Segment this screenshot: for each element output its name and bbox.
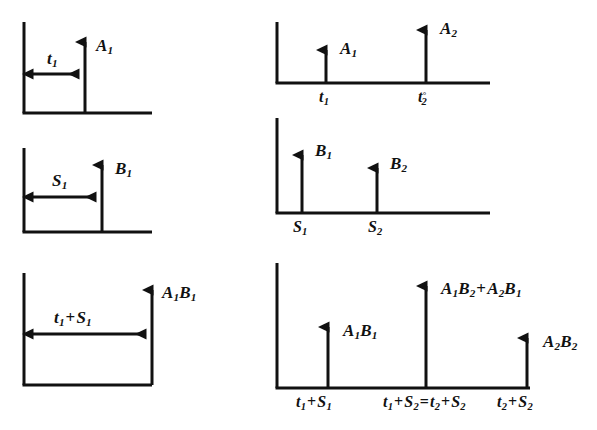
impulse-label-a2b2-right-bottom: A2B2 [543, 333, 577, 352]
panel-right-middle-axes [276, 118, 491, 213]
panel-left-bottom-axes [23, 273, 153, 385]
impulse-label-a1b1-right-bottom: A1B1 [343, 322, 377, 341]
figure-root: t1 A1 S1 B1 t1+S1 A1B1 A1 A2 t1 t°2 B1 B… [0, 0, 597, 430]
impulse-label-b2-right-middle: B2 [390, 155, 407, 174]
span-label-t1-left-top: t1 [47, 50, 58, 69]
axis-label-s1-right-middle: S1 [293, 219, 307, 238]
impulse-label-a1b2-a2b1-right-bottom: A1B2+A2B1 [441, 280, 522, 299]
axis-label-t1s2-equals-t2s2-right-bottom: t1+S2=t2+S2 [383, 394, 466, 413]
axis-label-t1-plus-s1-right-bottom: t1+S1 [296, 394, 332, 413]
panel-right-top-axes [276, 22, 491, 83]
span-label-s1-left-middle: S1 [52, 172, 67, 191]
impulse-label-b1-right-middle: B1 [315, 142, 332, 161]
impulse-label-b1-left-middle: B1 [115, 160, 132, 179]
impulse-label-a1b1-left-bottom: A1B1 [162, 284, 196, 303]
impulse-label-a1-right-top: A1 [340, 40, 357, 59]
panel-left-top-axes [23, 22, 153, 113]
panel-left-middle-axes [23, 148, 153, 232]
figure-canvas [0, 0, 597, 430]
impulse-label-a1-left-top: A1 [96, 37, 113, 56]
panel-right-middle-impulses [302, 155, 377, 213]
axis-label-t2-right-top: t°2 [418, 89, 427, 108]
impulse-label-a2-right-top: A2 [440, 20, 457, 39]
axis-label-t2-plus-s2-right-bottom: t2+S2 [497, 394, 533, 413]
axis-label-s2-right-middle: S2 [368, 219, 382, 238]
axis-label-t1-right-top: t1 [319, 89, 329, 108]
span-label-t1-plus-s1-left-bottom: t1+S1 [54, 309, 92, 328]
